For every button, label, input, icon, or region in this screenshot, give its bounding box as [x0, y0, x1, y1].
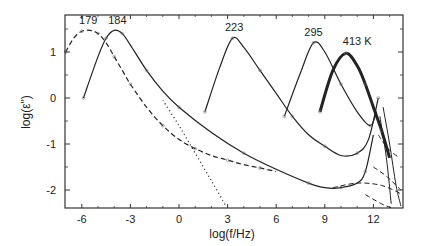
high-frequency-tail — [333, 183, 403, 195]
x-tick-label: 9 — [322, 213, 328, 225]
x-tick-label: 6 — [273, 213, 279, 225]
dielectric-loss-chart: -6-3036912 -2-101 log(f/Hz) log(ε") 1791… — [0, 0, 427, 246]
temperature-label: 223 — [225, 21, 243, 33]
x-tick-label: -3 — [126, 213, 136, 225]
y-tick-label: -1 — [46, 138, 56, 150]
temperature-annotations: 179184223295413 K — [79, 14, 372, 47]
series-curve-295 — [284, 42, 376, 126]
x-tick-label: 0 — [176, 213, 182, 225]
y-tick-label: 1 — [50, 46, 56, 58]
series-curve-413-K — [320, 53, 390, 157]
high-frequency-tail — [380, 116, 391, 203]
temperature-label: 179 — [79, 14, 97, 26]
x-tick-label: -6 — [77, 213, 87, 225]
y-axis-title: log(ε") — [19, 95, 33, 129]
high-frequency-tail — [373, 167, 401, 190]
plot-area — [64, 30, 402, 209]
series-curve-179 — [66, 30, 277, 171]
x-axis-title: log(f/Hz) — [209, 227, 254, 241]
y-tick-label: 0 — [50, 92, 56, 104]
series-curve-184 — [83, 30, 373, 188]
temperature-label: 184 — [108, 14, 126, 26]
temperature-label: 295 — [304, 26, 322, 38]
temperature-label: 413 K — [343, 35, 372, 47]
y-tick-label: -2 — [46, 184, 56, 196]
high-frequency-tail — [365, 195, 393, 209]
series-curve-dotted — [163, 100, 226, 206]
x-tick-label: 3 — [225, 213, 231, 225]
x-tick-label: 12 — [367, 213, 379, 225]
